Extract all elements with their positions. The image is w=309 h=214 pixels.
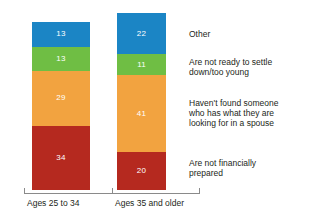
legend-label-line: who has what they are xyxy=(189,108,307,118)
bar-segment-not-financially-prepared[interactable]: 34 xyxy=(32,126,90,190)
legend-label-line: Are not ready to settle xyxy=(189,57,307,67)
segment-value: 13 xyxy=(56,55,65,63)
legend-label-not-ready-to-settle-down: Are not ready to settle down/too young xyxy=(189,57,307,77)
segment-value: 13 xyxy=(56,30,65,38)
plot-area: 13 13 29 34 22 11 41 20 xyxy=(0,0,309,214)
segment-value: 20 xyxy=(137,167,146,175)
legend-label-havent-found-someone: Haven't found someone who has what they … xyxy=(189,98,307,129)
stacked-bar-chart: 13 13 29 34 22 11 41 20 xyxy=(0,0,309,214)
bar-ages-35-and-older[interactable]: 22 11 41 20 xyxy=(117,13,166,190)
segment-value: 11 xyxy=(137,61,146,69)
x-axis-line xyxy=(24,193,200,194)
legend-label-line: Are not financially xyxy=(189,158,307,168)
segment-value: 41 xyxy=(137,110,146,118)
legend-label-line: prepared xyxy=(189,168,307,178)
bar-segment-havent-found-someone[interactable]: 41 xyxy=(117,75,166,152)
legend-label-line: Haven't found someone xyxy=(189,98,307,108)
axis-tick-right xyxy=(199,188,200,193)
axis-label-ages-25-to-34: Ages 25 to 34 xyxy=(27,198,79,208)
segment-value: 34 xyxy=(56,154,65,162)
legend-label-other: Other xyxy=(189,29,307,39)
bar-segment-other[interactable]: 13 xyxy=(32,22,90,47)
axis-label-ages-35-and-older: Ages 35 and older xyxy=(115,198,184,208)
bar-segment-not-ready-to-settle-down[interactable]: 11 xyxy=(117,54,166,75)
segment-value: 22 xyxy=(137,30,146,38)
bar-ages-25-to-34[interactable]: 13 13 29 34 xyxy=(32,22,90,190)
axis-tick-center xyxy=(112,188,113,193)
bar-segment-havent-found-someone[interactable]: 29 xyxy=(32,71,90,126)
bar-segment-not-ready-to-settle-down[interactable]: 13 xyxy=(32,47,90,72)
bar-segment-not-financially-prepared[interactable]: 20 xyxy=(117,152,166,190)
legend-label-line: looking for in a spouse xyxy=(189,118,307,128)
legend-label-line: down/too young xyxy=(189,67,307,77)
axis-tick-left xyxy=(24,188,25,193)
legend-label-not-financially-prepared: Are not financially prepared xyxy=(189,158,307,178)
legend-label-line: Other xyxy=(189,29,307,39)
bar-segment-other[interactable]: 22 xyxy=(117,13,166,54)
segment-value: 29 xyxy=(56,94,65,102)
